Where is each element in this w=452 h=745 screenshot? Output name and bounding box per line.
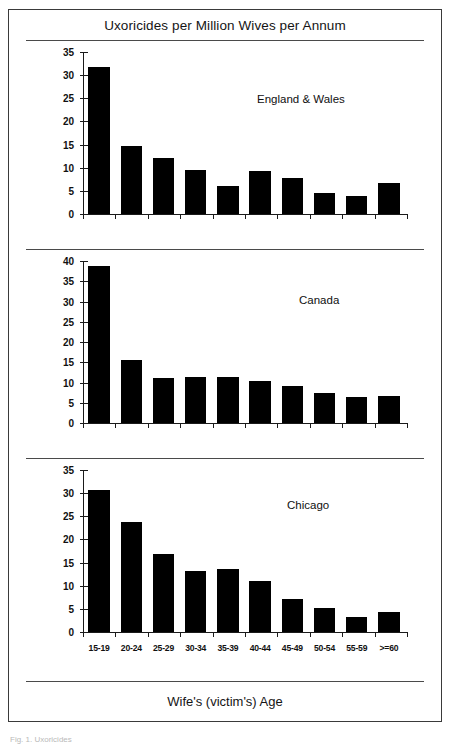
x-axis-tick [115, 214, 116, 219]
y-axis-tick-label: 10 [63, 379, 74, 389]
x-axis-tick [407, 214, 408, 219]
bar-slot [212, 262, 244, 424]
x-axis-title: Wife's (victim's) Age [167, 694, 282, 709]
x-axis-tick [148, 423, 149, 428]
x-axis-tick [83, 214, 84, 219]
bar [88, 490, 109, 633]
y-axis-tick-label: 30 [63, 298, 74, 308]
y-axis-tick-label: 15 [63, 559, 74, 569]
x-axis-tick [375, 632, 376, 637]
bar [314, 193, 335, 215]
x-axis-tick [180, 214, 181, 219]
bar [185, 170, 206, 215]
y-axis-tick-label: 10 [63, 582, 74, 592]
y-axis-tick-label: 35 [63, 277, 74, 287]
bar [346, 397, 367, 424]
x-axis-category-label: >=60 [373, 643, 405, 653]
y-axis-tick-label: 5 [68, 399, 74, 409]
bar [153, 554, 174, 633]
plot-area-chicago: 05101520253035 [83, 471, 405, 633]
x-axis-category-label: 15-19 [83, 643, 115, 653]
x-axis-category-label: 30-34 [180, 643, 212, 653]
bar-slot [115, 262, 147, 424]
y-axis-tick-label: 0 [68, 210, 74, 220]
bar [282, 386, 303, 424]
bar-slot [115, 471, 147, 633]
figure-frame: Uxoricides per Million Wives per Annum E… [8, 9, 442, 722]
x-axis-tick [213, 632, 214, 637]
y-axis-tick-label: 25 [63, 512, 74, 522]
x-axis-category-label: 35-39 [212, 643, 244, 653]
bar [153, 378, 174, 424]
x-axis-category-label: 45-49 [276, 643, 308, 653]
bar [185, 571, 206, 633]
x-axis-canada [83, 423, 407, 424]
x-axis-category-labels: 15-1920-2425-2930-3435-3940-4445-4950-54… [83, 643, 405, 653]
x-axis-tick [245, 423, 246, 428]
x-axis-tick [277, 423, 278, 428]
x-axis-title-band: Wife's (victim's) Age [9, 681, 441, 721]
y-axis-tick-label: 0 [68, 628, 74, 638]
bar-slot [212, 53, 244, 215]
x-axis-category-label: 55-59 [341, 643, 373, 653]
x-axis-tick [342, 214, 343, 219]
bar [249, 381, 270, 424]
bar [217, 569, 238, 633]
bar-slot [147, 53, 179, 215]
plot-area-england-wales: 05101520253035 [83, 53, 405, 215]
y-axis-tick-label: 5 [68, 187, 74, 197]
chart-panel-chicago: Chicago 05101520253035 15-1920-2425-2930… [9, 459, 441, 681]
y-axis-tick-label: 15 [63, 141, 74, 151]
x-axis-category-label: 50-54 [308, 643, 340, 653]
y-axis-tick-label: 35 [63, 466, 74, 476]
bar [346, 196, 367, 215]
x-axis-tick [213, 214, 214, 219]
bar-slot [83, 471, 115, 633]
bar-slot [212, 471, 244, 633]
bar [378, 183, 399, 215]
bar [185, 377, 206, 424]
bar-group-england-wales [83, 53, 405, 215]
plot-area-canada: 0510152025303540 [83, 262, 405, 424]
x-axis-tick [375, 214, 376, 219]
bar [217, 377, 238, 424]
bar [88, 67, 109, 215]
x-axis-tick [310, 423, 311, 428]
y-axis-tick-label: 15 [63, 358, 74, 368]
bar [282, 178, 303, 215]
y-axis-tick-label: 0 [68, 419, 74, 429]
x-axis-tick [83, 423, 84, 428]
x-axis-tick [148, 632, 149, 637]
bar-slot [115, 53, 147, 215]
bar-slot [276, 262, 308, 424]
bar-slot [373, 471, 405, 633]
chart-panel-england-wales: England & Wales 05101520253035 [9, 41, 441, 249]
x-axis-tick [277, 214, 278, 219]
y-axis-tick-label: 35 [63, 48, 74, 58]
bar-slot [341, 53, 373, 215]
x-axis-tick [375, 423, 376, 428]
x-axis-category-label: 20-24 [115, 643, 147, 653]
bar [378, 612, 399, 633]
x-axis-tick [245, 214, 246, 219]
x-axis-tick [180, 423, 181, 428]
bar [217, 186, 238, 215]
bar-slot [180, 53, 212, 215]
x-axis-tick [115, 632, 116, 637]
bar-slot [341, 262, 373, 424]
bar-slot [180, 262, 212, 424]
bar-slot [244, 53, 276, 215]
x-axis-tick [180, 632, 181, 637]
y-axis-tick-label: 20 [63, 117, 74, 127]
bar [88, 266, 109, 424]
bar [121, 360, 142, 424]
y-axis-tick-label: 10 [63, 164, 74, 174]
x-axis-tick [245, 632, 246, 637]
bar-slot [83, 262, 115, 424]
bar [314, 608, 335, 633]
x-axis-tick [277, 632, 278, 637]
bar [282, 599, 303, 633]
bar-slot [308, 262, 340, 424]
figure-title-band: Uxoricides per Million Wives per Annum [9, 10, 441, 40]
y-axis-tick-label: 20 [63, 338, 74, 348]
